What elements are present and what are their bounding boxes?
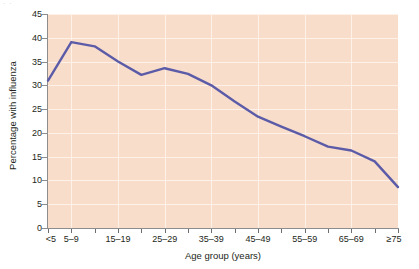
y-axis-tick-label: 15 — [22, 153, 42, 162]
gridline-horizontal — [48, 109, 398, 110]
y-axis-tick-label: 30 — [22, 81, 42, 90]
y-axis-line — [47, 14, 48, 229]
x-axis-tick — [71, 229, 72, 233]
y-axis-tick — [42, 14, 47, 15]
y-axis-tick — [42, 62, 47, 63]
y-axis-tick — [42, 38, 47, 39]
x-axis-tick — [258, 229, 259, 233]
gridline-vertical — [71, 14, 72, 228]
x-axis-tick-label: 45–49 — [245, 234, 270, 244]
x-axis-tick — [165, 229, 166, 233]
x-axis-tick-label: 25–29 — [152, 234, 177, 244]
x-axis-tick-label: 65–69 — [339, 234, 364, 244]
y-axis-tick — [42, 85, 47, 86]
corner-artifact-mark: · · — [3, 0, 25, 7]
gridline-vertical — [351, 14, 352, 228]
plot-area — [48, 14, 398, 228]
y-axis-tick — [42, 180, 47, 181]
x-axis-title: Age group (years) — [48, 250, 398, 261]
gridline-horizontal — [48, 38, 398, 39]
x-axis-tick-label: 35–39 — [199, 234, 224, 244]
x-axis-line — [47, 228, 399, 229]
x-axis-tick — [351, 229, 352, 233]
x-axis-tick — [398, 229, 399, 233]
gridline-horizontal — [48, 180, 398, 181]
gridline-vertical — [211, 14, 212, 228]
x-axis-tick — [118, 229, 119, 233]
y-axis-tick-label: 40 — [22, 34, 42, 43]
x-axis-tick-label: 5–9 — [64, 234, 79, 244]
x-axis-tick — [95, 229, 96, 233]
gridline-horizontal — [48, 157, 398, 158]
y-axis-tick — [42, 133, 47, 134]
gridline-vertical — [305, 14, 306, 228]
gridline-horizontal — [48, 204, 398, 205]
gridline-vertical — [118, 14, 119, 228]
chart-figure: · · 051015202530354045 <55–915–1925–2935… — [0, 0, 419, 269]
x-axis-tick — [141, 229, 142, 233]
x-axis-tick-label: ≥75 — [387, 234, 402, 244]
x-axis-tick — [375, 229, 376, 233]
gridline-horizontal — [48, 133, 398, 134]
y-axis-tick-label: 35 — [22, 58, 42, 67]
y-axis-tick — [42, 204, 47, 205]
x-axis-tick — [188, 229, 189, 233]
x-axis-tick-label: 55–59 — [292, 234, 317, 244]
y-axis-tick-label: 20 — [22, 129, 42, 138]
gridline-horizontal — [48, 62, 398, 63]
x-axis-tick — [211, 229, 212, 233]
x-axis-tick — [328, 229, 329, 233]
y-axis-tick — [42, 157, 47, 158]
x-axis-tick-label: 15–19 — [105, 234, 130, 244]
gridline-vertical — [165, 14, 166, 228]
y-axis-tick-label: 45 — [22, 10, 42, 19]
x-axis-tick-label: <5 — [46, 234, 56, 244]
y-axis-tick-label: 0 — [22, 224, 42, 233]
y-axis-title: Percentage with influenza — [7, 41, 18, 191]
x-axis-tick — [281, 229, 282, 233]
y-axis-tick-label: 10 — [22, 176, 42, 185]
x-axis-tick — [235, 229, 236, 233]
gridline-horizontal — [48, 14, 398, 15]
y-axis-tick — [42, 228, 47, 229]
gridline-vertical — [258, 14, 259, 228]
gridline-horizontal — [48, 85, 398, 86]
x-axis-tick — [305, 229, 306, 233]
y-axis-tick — [42, 109, 47, 110]
x-axis-tick — [48, 229, 49, 233]
y-axis-tick-label: 5 — [22, 200, 42, 209]
y-axis-tick-label: 25 — [22, 105, 42, 114]
